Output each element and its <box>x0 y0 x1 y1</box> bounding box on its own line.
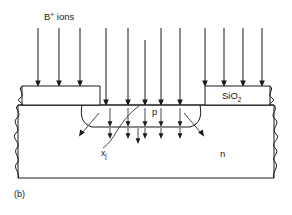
ion-species-label: B+ ions <box>44 11 74 22</box>
left-oxide-block <box>18 86 100 105</box>
figure-container: B+ ions SiO2 p n xj (b) <box>0 0 292 215</box>
ion-beam-arrows-window <box>103 28 183 106</box>
figure-caption: (b) <box>14 189 25 199</box>
silicon-substrate <box>14 105 277 178</box>
implantation-diagram: B+ ions SiO2 p n xj (b) <box>0 0 292 215</box>
ion-beam-arrows-right-masked <box>202 28 265 87</box>
n-region-label: n <box>220 148 225 159</box>
ion-beam-arrows-left-masked <box>35 28 83 87</box>
p-region-label: p <box>152 106 157 117</box>
